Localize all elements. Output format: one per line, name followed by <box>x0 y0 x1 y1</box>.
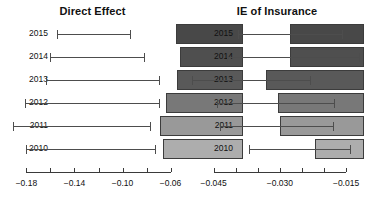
panel-direct-effect: Direct Effect 2015 2014 2013 2012 2011 2… <box>0 0 185 200</box>
axis-line <box>214 172 346 173</box>
axis-tick-label: −0.14 <box>54 178 94 188</box>
error-cap-low-2010 <box>26 145 27 154</box>
axis-tick <box>236 168 237 172</box>
chart-figure: Direct Effect 2015 2014 2013 2012 2011 2… <box>0 0 369 200</box>
axis-tick-label: −0.045 <box>194 178 234 188</box>
error-cap-low-2012 <box>25 99 26 108</box>
error-cap-low-2014 <box>227 53 228 62</box>
axis-tick <box>280 168 281 172</box>
error-cap-high-2012 <box>334 99 335 108</box>
axis-tick <box>99 168 100 172</box>
error-bar-2014 <box>50 57 144 58</box>
error-cap-high-2012 <box>159 99 160 108</box>
axis-tick <box>123 168 124 172</box>
error-cap-low-2015 <box>57 30 58 39</box>
error-cap-high-2015 <box>342 30 343 39</box>
error-cap-low-2013 <box>192 76 193 85</box>
error-cap-low-2011 <box>220 122 221 131</box>
error-cap-high-2011 <box>150 122 151 131</box>
axis-tick <box>74 168 75 172</box>
error-bar-2012 <box>25 103 159 104</box>
axis-tick <box>324 168 325 172</box>
error-bar-2014 <box>227 57 359 58</box>
error-cap-high-2015 <box>130 30 131 39</box>
error-bar-2010 <box>26 149 155 150</box>
axis-tick <box>214 168 215 172</box>
error-cap-high-2011 <box>333 122 334 131</box>
error-bar-2010 <box>249 149 350 150</box>
error-bar-2013 <box>192 80 310 81</box>
error-cap-low-2012 <box>217 99 218 108</box>
error-bar-2013 <box>46 80 158 81</box>
error-bar-2015 <box>57 34 130 35</box>
error-bar-2011 <box>220 126 333 127</box>
axis-tick <box>171 168 172 172</box>
axis-line <box>26 172 170 173</box>
panel-title-ie-of-insurance: IE of Insurance <box>193 5 361 17</box>
error-cap-high-2010 <box>155 145 156 154</box>
error-cap-high-2014 <box>144 53 145 62</box>
axis-tick <box>147 168 148 172</box>
error-cap-high-2013 <box>310 76 311 85</box>
error-bar-2015 <box>238 34 342 35</box>
axis-tick-label: −0.030 <box>260 178 300 188</box>
error-cap-low-2013 <box>46 76 47 85</box>
axis-tick <box>50 168 51 172</box>
error-bar-2012 <box>217 103 334 104</box>
axis-tick-label: −0.015 <box>326 178 366 188</box>
axis-tick <box>302 168 303 172</box>
panel-ie-of-insurance: IE of Insurance 2015 2014 2013 2012 2011… <box>185 0 369 200</box>
error-cap-high-2010 <box>350 145 351 154</box>
axis-tick-label: −0.18 <box>6 178 46 188</box>
axis-tick-label: −0.10 <box>103 178 143 188</box>
error-cap-high-2014 <box>359 53 360 62</box>
axis-tick <box>26 168 27 172</box>
error-cap-low-2011 <box>13 122 14 131</box>
plot-area-direct-effect <box>0 20 185 165</box>
axis-tick <box>346 168 347 172</box>
error-cap-low-2014 <box>50 53 51 62</box>
panel-title-direct-effect: Direct Effect <box>10 5 175 17</box>
axis-tick <box>258 168 259 172</box>
error-bar-2011 <box>13 126 151 127</box>
error-cap-high-2013 <box>159 76 160 85</box>
error-cap-low-2015 <box>238 30 239 39</box>
plot-area-ie-of-insurance <box>185 20 369 165</box>
error-cap-low-2010 <box>249 145 250 154</box>
